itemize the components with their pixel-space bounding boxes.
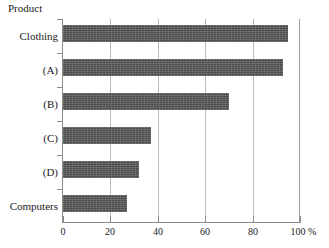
bar-b xyxy=(63,93,229,110)
category-label-clothing: Clothing xyxy=(19,30,58,43)
axis-title: Product xyxy=(8,2,42,15)
x-axis-line xyxy=(62,222,301,223)
x-tick-label-40: 40 xyxy=(138,226,178,238)
gridline-20 xyxy=(110,19,111,222)
gridline-80 xyxy=(253,19,254,222)
x-tick-60 xyxy=(205,216,206,222)
category-label-a: (A) xyxy=(43,64,58,77)
gridline-100 xyxy=(299,19,300,222)
y-tick-5 xyxy=(57,189,63,190)
category-label-b: (B) xyxy=(43,98,58,111)
x-tick-label-60: 60 xyxy=(185,226,225,238)
category-label-d: (D) xyxy=(43,166,58,179)
x-tick-0 xyxy=(63,216,64,222)
y-tick-1 xyxy=(57,53,63,54)
x-tick-80 xyxy=(253,216,254,222)
x-tick-40 xyxy=(158,216,159,222)
x-axis-unit-label: % xyxy=(308,226,316,238)
bar-d xyxy=(63,161,139,178)
bar-a xyxy=(63,59,283,76)
y-tick-4 xyxy=(57,155,63,156)
gridline-60 xyxy=(205,19,206,222)
x-tick-100 xyxy=(300,216,301,222)
x-tick-20 xyxy=(110,216,111,222)
bar-computers xyxy=(63,195,127,212)
bar-c xyxy=(63,127,151,144)
plot-area xyxy=(63,19,300,222)
y-tick-2 xyxy=(57,87,63,88)
x-tick-label-80: 80 xyxy=(233,226,273,238)
x-tick-label-20: 20 xyxy=(90,226,130,238)
y-tick-0 xyxy=(57,19,63,20)
x-tick-label-0: 0 xyxy=(43,226,83,238)
category-label-c: (C) xyxy=(43,132,58,145)
y-tick-3 xyxy=(57,121,63,122)
category-label-computers: Computers xyxy=(10,200,58,213)
bar-clothing xyxy=(63,25,288,42)
gridline-40 xyxy=(158,19,159,222)
bar-chart: Product Clothing (A) (B) (C) (D) Compute… xyxy=(0,0,329,248)
